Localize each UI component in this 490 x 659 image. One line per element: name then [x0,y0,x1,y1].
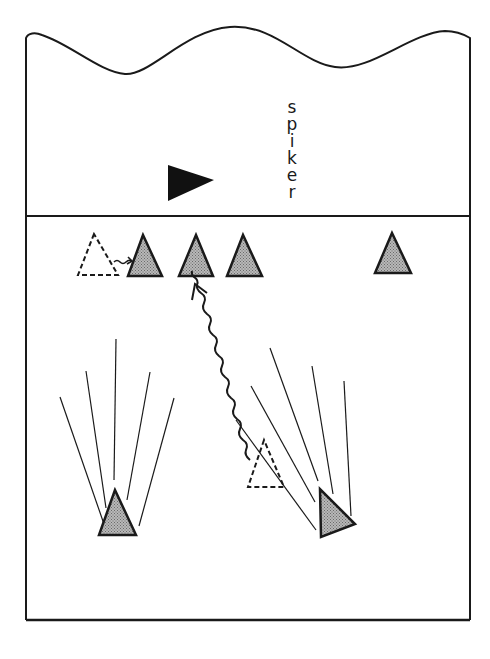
sight-line [86,371,106,508]
front-row-player-1 [128,235,162,276]
sight-line [114,339,116,480]
volleyball-diagram: spiker [0,0,490,659]
sight-line [60,397,105,527]
spiker-label-letter: r [289,182,296,202]
ghost-position-front [78,234,118,275]
front-row-player-4 [375,233,411,273]
movement-arrow-long [192,271,250,460]
sight-line [344,381,351,516]
spiker-label: spiker [287,97,298,202]
sight-line [270,348,318,481]
ghost-position-back [248,440,284,487]
front-row-player-3 [227,235,262,276]
court-boundary [26,27,470,88]
sight-line [236,420,316,530]
spiker-marker [168,165,214,201]
front-row-player-2 [179,235,213,276]
sight-line [127,372,150,500]
sight-line [139,398,174,526]
